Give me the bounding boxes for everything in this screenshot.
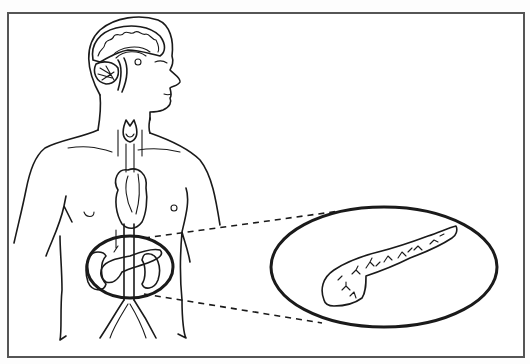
anatomy-figure: Location of the pancreas in the human bo… [0, 0, 530, 364]
anatomy-drawing [0, 0, 530, 364]
neck-front [149, 118, 150, 133]
magnified-pancreas-callout [271, 207, 497, 327]
